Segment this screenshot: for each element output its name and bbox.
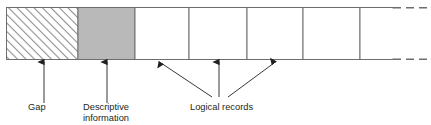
arrow-to-record-1 xyxy=(161,63,212,97)
diagram-canvas: Gap Descriptive information Logical reco… xyxy=(0,0,431,125)
record-3-leader-line xyxy=(228,63,274,97)
descriptive-block-rect xyxy=(78,8,135,60)
label-descriptive-information-line1: Descriptive xyxy=(83,102,129,112)
block-logical-record-4 xyxy=(303,8,360,60)
record-1-rect xyxy=(135,8,189,60)
record-4-rect xyxy=(303,8,360,60)
block-logical-record-2 xyxy=(189,8,247,60)
block-gap xyxy=(7,8,79,60)
tape-block-diagram: Gap Descriptive information Logical reco… xyxy=(0,0,431,125)
block-descriptive-information xyxy=(78,8,135,60)
label-gap: Gap xyxy=(28,102,46,112)
arrow-to-record-3 xyxy=(228,63,274,97)
record-5-rect xyxy=(360,8,393,60)
block-logical-record-5 xyxy=(360,8,395,60)
record-1-leader-line xyxy=(161,63,212,97)
record-3-rect xyxy=(247,8,303,60)
gap-block-rect xyxy=(7,8,79,60)
record-2-rect xyxy=(189,8,247,60)
label-descriptive-information-line2: information xyxy=(83,113,129,123)
label-logical-records: Logical records xyxy=(190,102,253,112)
block-logical-record-3 xyxy=(247,8,303,60)
record-5-open-edge-mask xyxy=(391,8,395,58)
block-logical-record-1 xyxy=(135,8,189,60)
continuation-dashes xyxy=(393,8,429,60)
